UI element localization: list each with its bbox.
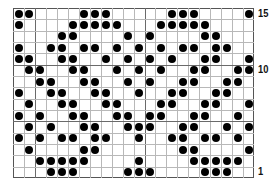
stitch-dot <box>190 78 198 86</box>
stitch-dot <box>124 55 132 63</box>
stitch-dot <box>47 78 55 86</box>
grid-column-line <box>24 8 25 178</box>
stitch-dot <box>245 66 253 74</box>
grid-row-line <box>13 110 254 111</box>
stitch-dot <box>168 10 176 18</box>
stitch-dot <box>245 55 253 63</box>
stitch-dot <box>190 21 198 29</box>
stitch-dot <box>15 112 23 120</box>
stitch-dot <box>234 134 242 142</box>
stitch-dot <box>223 44 231 52</box>
stitch-dot <box>201 55 209 63</box>
stitch-dot <box>58 44 66 52</box>
stitch-dot <box>223 89 231 97</box>
stitch-dot <box>245 123 253 131</box>
stitch-dot <box>157 112 165 120</box>
stitch-dot <box>15 89 23 97</box>
stitch-dot <box>212 134 220 142</box>
row-label-10: 10 <box>258 63 268 75</box>
stitch-dot <box>212 55 220 63</box>
stitch-dot <box>223 157 231 165</box>
stitch-dot <box>234 112 242 120</box>
stitch-dot <box>234 157 242 165</box>
stitch-dot <box>113 44 121 52</box>
row-label-15: 15 <box>258 7 268 19</box>
stitch-dot <box>179 146 187 154</box>
stitch-dot <box>212 100 220 108</box>
stitch-dot <box>91 10 99 18</box>
stitch-dot <box>15 55 23 63</box>
stitch-dot <box>179 10 187 18</box>
stitch-dot <box>212 89 220 97</box>
stitch-dot <box>190 44 198 52</box>
stitch-dot <box>223 78 231 86</box>
stitch-dot <box>15 134 23 142</box>
stitch-dot <box>201 157 209 165</box>
stitch-dot <box>245 146 253 154</box>
stitch-dot <box>135 44 143 52</box>
grid-column-line <box>112 8 113 178</box>
stitch-dot <box>201 134 209 142</box>
stitch-dot <box>124 112 132 120</box>
stitch-dot <box>80 146 88 154</box>
grid-column-line <box>155 8 156 178</box>
stitch-dot <box>234 66 242 74</box>
stitch-dot <box>234 78 242 86</box>
stitch-dot <box>179 21 187 29</box>
stitch-dot <box>135 123 143 131</box>
grid-row-line <box>13 144 254 145</box>
row-label-1: 1 <box>258 165 263 177</box>
stitch-dot <box>15 21 23 29</box>
stitch-dot <box>69 112 77 120</box>
stitch-dot <box>135 89 143 97</box>
stitch-dot <box>212 168 220 176</box>
grid-column-line <box>35 8 36 178</box>
stitch-dot <box>179 78 187 86</box>
grid-column-line <box>243 8 244 178</box>
grid-row-line <box>13 53 254 54</box>
stitch-dot <box>245 10 253 18</box>
stitch-dot <box>179 44 187 52</box>
stitch-dot <box>124 78 132 86</box>
stitch-dot <box>201 100 209 108</box>
stitch-dot <box>201 112 209 120</box>
stitch-dot <box>190 146 198 154</box>
stitch-dot <box>179 89 187 97</box>
stitch-dot <box>223 123 231 131</box>
knitting-chart-grid <box>13 8 254 178</box>
grid-column-line <box>221 8 222 178</box>
stitch-dot <box>47 44 55 52</box>
stitch-dot <box>168 55 176 63</box>
stitch-dot <box>80 112 88 120</box>
stitch-dot <box>91 146 99 154</box>
stitch-dot <box>201 66 209 74</box>
stitch-dot <box>15 44 23 52</box>
stitch-dot <box>168 89 176 97</box>
grid-column-line <box>79 8 80 178</box>
stitch-dot <box>190 157 198 165</box>
grid-column-line <box>188 8 189 178</box>
stitch-dot <box>80 78 88 86</box>
stitch-dot <box>168 21 176 29</box>
stitch-dot <box>146 78 154 86</box>
grid-row-line <box>13 19 254 20</box>
stitch-dot <box>146 112 154 120</box>
grid-row-line <box>13 76 254 77</box>
stitch-dot <box>190 112 198 120</box>
grid-column-line <box>199 8 200 178</box>
stitch-dot <box>190 123 198 131</box>
stitch-dot <box>212 44 220 52</box>
stitch-dot <box>157 44 165 52</box>
stitch-dot <box>113 112 121 120</box>
stitch-dot <box>80 44 88 52</box>
stitch-dot <box>157 21 165 29</box>
stitch-dot <box>190 10 198 18</box>
stitch-dot <box>102 10 110 18</box>
stitch-dot <box>212 32 220 40</box>
grid-row-line <box>13 65 254 66</box>
stitch-dot <box>15 10 23 18</box>
stitch-dot <box>245 100 253 108</box>
grid-row-line <box>13 42 254 43</box>
stitch-dot <box>201 32 209 40</box>
stitch-dot <box>212 157 220 165</box>
